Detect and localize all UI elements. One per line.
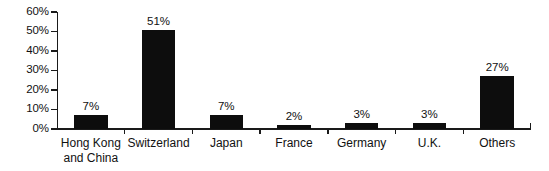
y-axis-tick-label-text: 30%	[3, 64, 49, 76]
y-axis-tick-label: 10%	[0, 103, 49, 115]
x-axis-category-label-line: Germany	[328, 136, 396, 151]
x-axis-tick	[395, 128, 396, 134]
y-axis-tick-label-text: 0%	[3, 123, 49, 135]
x-axis-category-label: Switzerland	[125, 136, 193, 151]
x-axis-category-label: Japan	[192, 136, 260, 151]
bar-value-label: 27%	[467, 61, 527, 73]
x-axis-category-label: France	[260, 136, 328, 151]
x-axis-category-label: U.K.	[396, 136, 464, 151]
bar	[142, 30, 176, 129]
bar-value-label: 51%	[129, 15, 189, 27]
x-axis-category-label-line: Hong Kong	[57, 136, 125, 151]
bar	[345, 123, 379, 129]
y-axis-tick-label: 0%	[0, 123, 49, 135]
bar-value-label: 7%	[196, 100, 256, 112]
x-axis-end-cap	[530, 123, 531, 130]
y-axis-tick-label: 50%	[0, 25, 49, 37]
bar	[480, 76, 514, 129]
x-axis-tick	[463, 128, 464, 134]
y-axis-tick	[51, 50, 57, 51]
bar	[74, 115, 108, 129]
bar	[277, 125, 311, 129]
y-axis-line	[57, 12, 58, 129]
bar-chart: 0%10%20%30%40%50%60% 7%51%7%2%3%3%27% Ho…	[0, 0, 549, 171]
y-axis-tick-label-text: 20%	[3, 84, 49, 96]
x-axis-category-label-line: and China	[57, 151, 125, 166]
x-axis-category-label-line: Japan	[192, 136, 260, 151]
x-axis-category-label-line: U.K.	[396, 136, 464, 151]
x-axis-tick	[327, 128, 328, 134]
y-axis-tick-label-text: 60%	[3, 6, 49, 18]
y-axis-tick-label-text: 40%	[3, 45, 49, 57]
x-axis-category-label: Others	[463, 136, 531, 151]
x-axis-category-label: Hong Kongand China	[57, 136, 125, 165]
x-axis-category-label-line: Switzerland	[125, 136, 193, 151]
y-axis-tick-label: 60%	[0, 6, 49, 18]
bar-value-label: 3%	[399, 108, 459, 120]
x-axis-tick	[259, 128, 260, 134]
x-axis-category-label: Germany	[328, 136, 396, 151]
x-axis-category-label-line: Others	[463, 136, 531, 151]
x-axis-category-label-line: France	[260, 136, 328, 151]
bar-value-label: 3%	[332, 108, 392, 120]
bar	[413, 123, 447, 129]
y-axis-tick-label: 20%	[0, 84, 49, 96]
y-axis-tick	[51, 11, 57, 12]
x-axis-tick	[192, 128, 193, 134]
bar-value-label: 7%	[61, 100, 121, 112]
y-axis-tick	[51, 89, 57, 90]
y-axis-tick-label: 40%	[0, 45, 49, 57]
y-axis-tick	[51, 31, 57, 32]
y-axis-tick-label-text: 50%	[3, 25, 49, 37]
x-axis-tick	[124, 128, 125, 134]
y-axis-tick-label: 30%	[0, 64, 49, 76]
y-axis-tick-label-text: 10%	[3, 103, 49, 115]
bar-value-label: 2%	[264, 110, 324, 122]
y-axis-tick	[51, 70, 57, 71]
y-axis-tick	[51, 109, 57, 110]
bar	[210, 115, 244, 129]
